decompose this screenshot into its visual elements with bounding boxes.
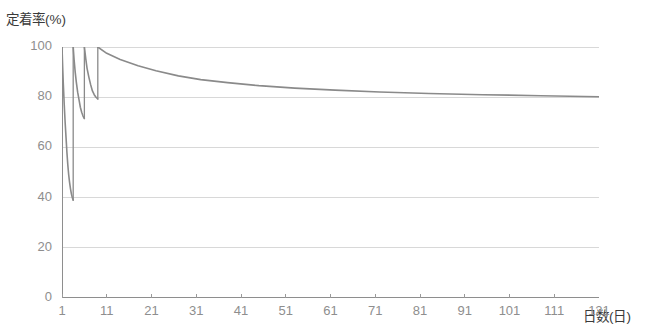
x-tick-label: 61	[311, 303, 351, 318]
plot-svg	[62, 47, 599, 298]
x-tick-label: 111	[534, 303, 574, 318]
axis-frame	[62, 47, 599, 298]
x-tick-label: 41	[221, 303, 261, 318]
x-tick-label: 1	[42, 303, 82, 318]
y-tick-label: 60	[8, 138, 52, 153]
x-tick-label: 81	[400, 303, 440, 318]
x-tick-label: 121	[579, 303, 619, 318]
series-segment-decay-1	[62, 47, 73, 200]
y-tick-label: 80	[8, 88, 52, 103]
data-series	[62, 47, 599, 200]
x-tick-label: 51	[266, 303, 306, 318]
y-tick-label: 40	[8, 189, 52, 204]
series-segment-decay-4	[98, 47, 599, 97]
y-tick-label: 100	[8, 38, 52, 53]
x-tick-label: 71	[355, 303, 395, 318]
x-tick-label: 11	[87, 303, 127, 318]
x-tick-label: 91	[445, 303, 485, 318]
retention-rate-chart: 定着率(%) 日数(日) 020406080100 11121314151617…	[0, 0, 649, 332]
x-tick-label: 101	[490, 303, 530, 318]
x-tick-label: 21	[132, 303, 172, 318]
series-segment-decay-3	[84, 47, 97, 99]
chart-title-clipped	[205, 0, 505, 5]
y-axis-label: 定着率(%)	[6, 8, 66, 28]
x-tick-label: 31	[176, 303, 216, 318]
gridlines	[62, 47, 599, 248]
y-tick-label: 20	[8, 239, 52, 254]
plot-area	[62, 47, 599, 298]
y-tick-label: 0	[8, 289, 52, 304]
series-segment-decay-2	[73, 47, 84, 119]
